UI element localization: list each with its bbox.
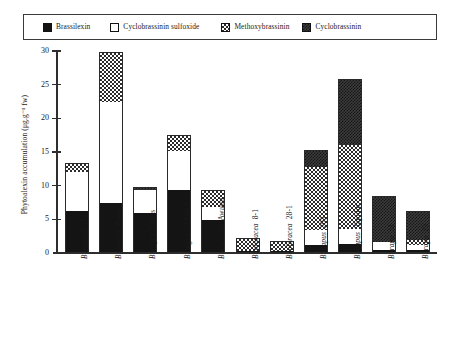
x-axis-label-b-juncea-172: B. juncea 172 (80, 214, 89, 259)
bar-segment-cyclobrassinin (304, 150, 328, 167)
bar-chart: Phytoalexin accumulation (μg.g⁻¹ fw) 051… (0, 0, 466, 355)
x-axis-label-b-nigra-72-096-1: B. nigra 72.096.1 (183, 203, 192, 260)
bar-segment-methoxybrassinin (167, 135, 191, 151)
x-axis-label-b-carinata-awassa: B. carinata Awassa (217, 197, 226, 259)
y-tick-label-15: 15 (23, 147, 49, 156)
bar-segment-cyclobrassinin-sulfoxide (65, 172, 89, 212)
x-axis-label-b-rapa-34: B. rapa 34 (387, 224, 396, 259)
x-axis-label-b-oleracea-8-1: B. oleracea 8-1 (251, 209, 260, 259)
x-axis-label-b-oleracea-28-1: B. oleracea 28-1 (285, 205, 294, 259)
y-tick-label-10: 10 (23, 181, 49, 190)
y-tick-label-5: 5 (23, 214, 49, 223)
bar-segment-methoxybrassinin (99, 52, 123, 103)
bar-segment-cyclobrassinin-sulfoxide (99, 102, 123, 202)
bar-segment-cyclobrassinin-sulfoxide (167, 151, 191, 191)
x-axis-label-b-rapa-29: B. rapa 29 (421, 224, 430, 259)
x-axis-label-b-nigra-junius: B. nigra Junius (148, 210, 157, 259)
y-tick-label-20: 20 (23, 113, 49, 122)
bar-segment-cyclobrassinin (338, 79, 362, 146)
x-axis-label-b-juncea-aurea: B. juncea Aurea (114, 207, 123, 259)
x-axis-label-b-napus-203: B. napus 203 (319, 216, 328, 259)
y-tick-label-0: 0 (23, 248, 49, 257)
y-tick-label-30: 30 (23, 46, 49, 55)
x-axis-label-b-napus-tapidor: B. napus Tapidor (353, 204, 362, 259)
y-tick-label-25: 25 (23, 80, 49, 89)
bar-segment-methoxybrassinin (65, 163, 89, 171)
